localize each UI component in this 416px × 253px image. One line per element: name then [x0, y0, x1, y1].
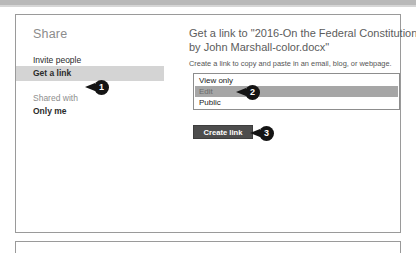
sidebar-item-get-a-link[interactable]: Get a link	[16, 66, 164, 81]
sidebar-item-label: Invite people	[33, 55, 81, 65]
permission-option-view-only[interactable]: View only	[195, 75, 398, 86]
callout-number: 2	[250, 87, 255, 97]
secondary-panel	[15, 241, 401, 253]
callout-pointer-icon	[236, 88, 246, 96]
callout-pointer-icon	[85, 83, 95, 91]
callout-badge-1: 1	[94, 80, 109, 95]
callout-badge-2: 2	[245, 85, 260, 100]
share-dialog: Share Invite people Get a link Shared wi…	[15, 14, 401, 233]
share-content-pane: Get a link to "2016-On the Federal Const…	[164, 15, 400, 232]
create-link-button[interactable]: Create link	[193, 125, 253, 139]
shared-with-value: Only me	[33, 106, 67, 116]
get-link-description: Create a link to copy and paste in an em…	[189, 59, 416, 68]
callout-number: 3	[264, 128, 269, 138]
permission-option-public[interactable]: Public	[195, 97, 398, 108]
share-panel-title: Share	[33, 27, 67, 41]
callout-pointer-icon	[250, 129, 260, 137]
callout-badge-3: 3	[259, 126, 274, 141]
permission-listbox[interactable]: View only Edit Public	[193, 73, 400, 110]
callout-number: 1	[99, 82, 104, 92]
sidebar-item-label: Get a link	[33, 68, 71, 78]
permission-option-edit[interactable]: Edit	[195, 86, 398, 97]
get-link-headline: Get a link to "2016-On the Federal Const…	[189, 26, 416, 54]
page-top-band-shade	[0, 5, 416, 7]
share-sidebar: Share Invite people Get a link Shared wi…	[16, 15, 164, 232]
shared-with-label: Shared with	[33, 93, 78, 103]
